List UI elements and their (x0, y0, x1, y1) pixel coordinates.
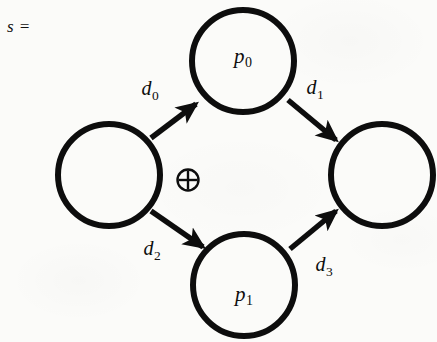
figure-canvas: s = p0 p1 d0 d1 (0, 0, 437, 342)
node-source (58, 124, 160, 226)
edge-d3 (290, 211, 336, 249)
graph-drawing (0, 0, 437, 342)
xor-circle-plus-icon (178, 170, 199, 191)
node-label-p1: p1 (235, 282, 253, 309)
edge-label-d3: d3 (315, 253, 332, 280)
node-sink (331, 124, 433, 226)
edge-label-d0: d0 (141, 77, 158, 104)
node-label-p0: p0 (234, 44, 252, 71)
edge-d0 (151, 104, 196, 138)
edge-d1 (288, 100, 336, 140)
edge-label-d2: d2 (143, 237, 160, 264)
edge-label-d1: d1 (306, 76, 323, 103)
